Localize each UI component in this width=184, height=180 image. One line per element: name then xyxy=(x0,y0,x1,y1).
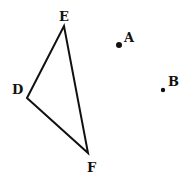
point-b-dot xyxy=(161,88,165,92)
point-a-dot xyxy=(116,42,122,48)
point-label-b: B xyxy=(168,74,179,89)
triangle-def xyxy=(27,26,88,153)
vertex-label-d: D xyxy=(12,82,23,97)
vertex-label-e: E xyxy=(59,9,69,24)
point-label-a: A xyxy=(123,30,135,45)
vertex-label-f: F xyxy=(87,160,97,175)
geometry-diagram: E D F A B xyxy=(0,0,184,180)
